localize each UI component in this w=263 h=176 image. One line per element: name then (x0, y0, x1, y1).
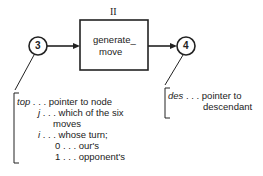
leader-line-3 (15, 55, 34, 90)
node-3-label: 3 (35, 40, 41, 51)
process-box (80, 20, 148, 70)
process-label-line2: move (99, 46, 122, 57)
annotation-des-cont: descendant (203, 101, 252, 112)
process-number: II (110, 6, 117, 17)
annotation-j-cont: moves (53, 118, 81, 129)
annotation-top: top . . . pointer to node (17, 96, 112, 107)
arrowhead-out (170, 43, 177, 49)
leader-line-4 (165, 55, 183, 85)
annotation-j: j . . . which of the six (38, 107, 124, 118)
node-4-label: 4 (183, 40, 189, 51)
diagram-canvas (0, 0, 263, 176)
annotation-i-1: 1 . . . opponent's (55, 151, 125, 162)
process-label-line1: generate_ (93, 34, 136, 45)
annotation-des: des . . . pointer to (168, 90, 241, 101)
annotation-i: i . . . whose turn; (38, 129, 108, 140)
arrowhead-in (73, 43, 80, 49)
annotation-i-0: 0 . . . our's (55, 140, 99, 151)
